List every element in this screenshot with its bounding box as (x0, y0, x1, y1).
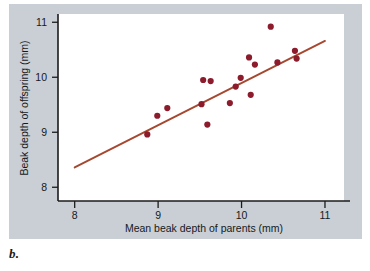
scatter-plot: 891011 891011 Mean beak depth of parents… (9, 4, 362, 239)
panel-letter-label: b. (9, 246, 19, 262)
y-tick-label: 9 (41, 126, 47, 138)
data-point (248, 92, 254, 98)
y-tick-label: 11 (36, 16, 47, 28)
y-axis: 891011 (35, 14, 58, 201)
data-point (208, 78, 214, 84)
data-point (164, 105, 170, 111)
data-point (204, 121, 210, 127)
plot-background (58, 14, 344, 201)
data-point (252, 62, 258, 68)
x-axis-title: Mean beak depth of parents (mm) (125, 222, 283, 234)
data-point (233, 84, 239, 90)
data-point (268, 24, 274, 30)
y-tick-label: 8 (41, 181, 47, 193)
chart-panel: 891011 891011 Mean beak depth of parents… (9, 4, 362, 239)
data-point (294, 55, 300, 61)
x-tick-label: 11 (320, 209, 331, 221)
data-point (274, 59, 280, 65)
x-axis: 891011 (58, 201, 350, 221)
y-tick-group: 891011 (35, 16, 58, 193)
data-point (292, 48, 298, 54)
data-point (227, 100, 233, 106)
figure-panel: 891011 891011 Mean beak depth of parents… (0, 0, 370, 271)
x-tick-label: 10 (236, 209, 248, 221)
data-point (144, 131, 150, 137)
data-point (200, 77, 206, 83)
x-tick-label: 9 (155, 209, 161, 221)
data-point (154, 113, 160, 119)
plot-area-wrapper: 891011 891011 Mean beak depth of parents… (9, 4, 362, 239)
y-tick-label: 10 (35, 71, 47, 83)
y-axis-title: Beak depth of offspring (mm) (18, 40, 30, 175)
data-point (246, 54, 252, 60)
data-point (198, 101, 204, 107)
data-point (238, 75, 244, 81)
x-tick-label: 8 (72, 209, 78, 221)
x-tick-group: 891011 (72, 201, 331, 221)
